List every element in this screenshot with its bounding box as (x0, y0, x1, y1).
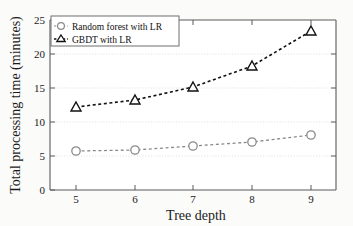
y-tick-label-20: 20 (34, 48, 46, 60)
y-tick-label-0: 0 (40, 184, 46, 196)
y-axis-title: Total processing time (minutes) (8, 16, 24, 194)
y-tick-label-15: 15 (34, 82, 46, 94)
random-forest-marker (307, 131, 315, 139)
random-forest-marker (248, 138, 256, 146)
circle-marker-icon (58, 23, 65, 30)
chart-figure: 0 5 10 15 20 25 5 6 7 8 9 Tree depth Tot… (0, 0, 353, 226)
legend-label-gbdt: GBDT with LR (72, 35, 132, 45)
random-forest-marker (72, 147, 80, 155)
y-tick-label-25: 25 (34, 14, 46, 26)
chart-legend[interactable]: Random forest with LR GBDT with LR (51, 16, 179, 46)
x-tick-label-9: 9 (308, 193, 314, 205)
x-tick-label-5: 5 (73, 193, 79, 205)
line-chart: 0 5 10 15 20 25 5 6 7 8 9 Tree depth Tot… (0, 0, 353, 226)
x-tick-label-8: 8 (249, 193, 255, 205)
random-forest-marker (131, 146, 139, 154)
random-forest-marker (189, 142, 197, 150)
x-axis-title: Tree depth (166, 208, 226, 223)
x-tick-label-6: 6 (132, 193, 138, 205)
y-tick-label-10: 10 (34, 116, 46, 128)
y-tick-label-5: 5 (40, 150, 46, 162)
legend-label-random-forest: Random forest with LR (72, 22, 163, 32)
x-tick-label-7: 7 (190, 193, 196, 205)
